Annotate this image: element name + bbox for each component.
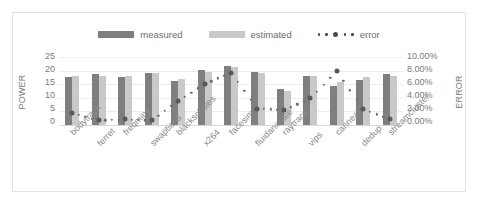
bar-measured: [224, 66, 231, 125]
bar-estimated: [72, 76, 79, 125]
legend-item-error: error: [318, 29, 380, 40]
bar-measured: [118, 77, 125, 125]
chart-container: measured estimated error POWER ERROR 25 …: [12, 12, 466, 192]
bar-estimated: [152, 73, 159, 125]
x-tick-label: dedup: [359, 123, 384, 148]
legend-label-error: error: [360, 29, 380, 40]
bar-group: [377, 57, 403, 125]
x-axis-tick-labels: bodytrackferretfreqmineswaptionsblacksch…: [59, 126, 403, 190]
bar-measured: [383, 74, 390, 125]
y-tick-left: 20: [45, 66, 55, 73]
bar-estimated: [310, 76, 317, 125]
bar-estimated: [258, 73, 265, 125]
y-axis-title-power: POWER: [17, 74, 27, 109]
bar-estimated: [363, 77, 370, 125]
y-tick-left: 25: [45, 53, 55, 60]
x-tick-label: x264: [201, 127, 222, 148]
legend-label-estimated: estimated: [251, 29, 292, 40]
y-tick-left: 15: [45, 79, 55, 86]
legend-item-measured: measured: [98, 29, 182, 40]
x-tick-label: vips: [306, 130, 324, 148]
x-tick-label: ferret: [95, 126, 117, 148]
y-tick-left: 0: [50, 118, 55, 125]
bar-measured: [330, 86, 337, 125]
legend-marker-error: [318, 31, 354, 39]
y-tick-left: 5: [50, 105, 55, 112]
y-tick-left: 10: [45, 92, 55, 99]
bar-estimated: [390, 76, 397, 126]
legend-item-estimated: estimated: [209, 29, 292, 40]
y-tick-right: 10.00%: [407, 53, 438, 60]
y-axis-ticks-left: 25 20 15 10 5 0: [31, 53, 55, 125]
chart-legend: measured estimated error: [13, 29, 465, 40]
legend-label-measured: measured: [140, 29, 182, 40]
bar-group: [324, 57, 350, 125]
legend-swatch-measured: [98, 31, 134, 38]
y-tick-right: 6.00%: [407, 79, 433, 86]
y-axis-title-error: ERROR: [454, 75, 464, 109]
bar-measured: [65, 77, 72, 125]
bar-estimated: [99, 76, 106, 126]
bar-estimated: [125, 76, 132, 125]
y-tick-right: 8.00%: [407, 66, 433, 73]
bar-estimated: [231, 67, 238, 125]
legend-swatch-estimated: [209, 31, 245, 38]
